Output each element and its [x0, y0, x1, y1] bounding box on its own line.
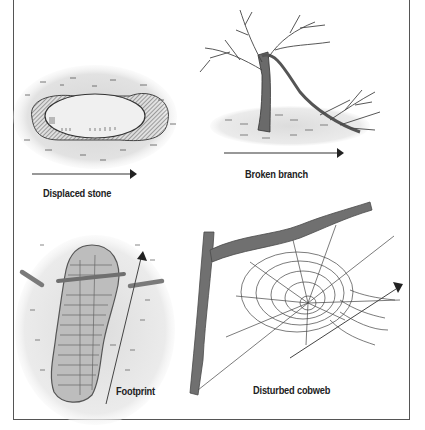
tree-trunk: [258, 52, 270, 132]
illustration-canvas: [0, 0, 425, 430]
label-disturbed-cobweb: Disturbed cobweb: [253, 384, 330, 396]
arrowhead-icon: [337, 148, 344, 158]
label-displaced-stone: Displaced stone: [43, 187, 111, 199]
arrowhead-icon: [393, 282, 403, 293]
label-broken-branch: Broken branch: [245, 168, 308, 180]
arrowhead-icon: [130, 169, 137, 179]
label-footprint: Footprint: [116, 385, 155, 397]
broken-branch-illustration: [200, 10, 380, 158]
displaced-stone-illustration: [13, 65, 177, 179]
tree-branch-vertical: [190, 232, 214, 395]
disturbed-cobweb-illustration: [190, 202, 403, 395]
stone: [45, 94, 145, 138]
tree-branch-horizontal: [210, 202, 372, 262]
